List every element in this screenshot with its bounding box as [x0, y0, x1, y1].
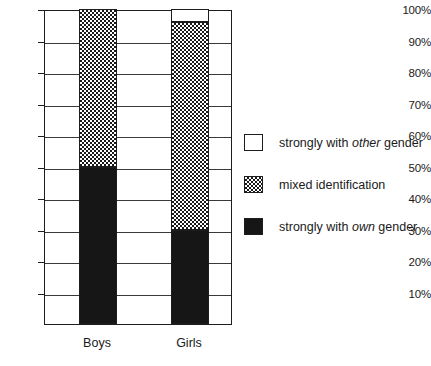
- stacked-bar-chart: 100%90%80%70%60%50%40%30%20%10% BoysGirl…: [0, 0, 431, 366]
- y-axis-tick-label: 80%: [395, 67, 431, 79]
- bar-boys: [79, 9, 117, 324]
- y-axis-tick-label: 10%: [395, 288, 431, 300]
- legend-swatch-mixed: [244, 176, 263, 193]
- bar-segment-own: [79, 167, 117, 325]
- legend-swatch-other: [244, 134, 263, 151]
- bar-segment-mixed: [79, 9, 117, 167]
- legend-label: mixed identification: [279, 178, 385, 192]
- y-axis-tick-label: 40%: [395, 193, 431, 205]
- legend-item: strongly with other gender: [244, 134, 423, 151]
- plot-area: [44, 10, 232, 325]
- legend-item: mixed identification: [244, 176, 385, 193]
- y-axis-tick-label: 100%: [395, 4, 431, 16]
- x-axis-tick-label: Girls: [176, 336, 202, 350]
- legend-swatch-own: [244, 218, 263, 235]
- legend-item: strongly with own gender: [244, 218, 417, 235]
- legend-label: strongly with own gender: [279, 220, 417, 234]
- bar-segment-other: [171, 9, 209, 22]
- bar-segment-mixed: [171, 22, 209, 230]
- y-axis-tick-label: 90%: [395, 36, 431, 48]
- y-axis-tick-label: 70%: [395, 99, 431, 111]
- y-axis-tick-label: 50%: [395, 162, 431, 174]
- legend-label: strongly with other gender: [279, 136, 423, 150]
- bar-segment-own: [171, 230, 209, 325]
- bar-girls: [171, 9, 209, 324]
- x-axis-tick-label: Boys: [83, 336, 111, 350]
- y-axis-tick-label: 20%: [395, 256, 431, 268]
